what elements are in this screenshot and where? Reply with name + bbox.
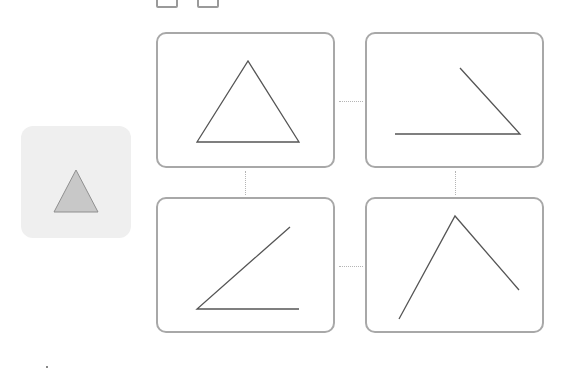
- angle-outline-icon: [367, 34, 546, 170]
- partial-option-box-2: [197, 0, 219, 8]
- filled-triangle-icon: [21, 126, 131, 238]
- connector-bottom: [339, 266, 363, 267]
- cursor-mark: [46, 366, 48, 368]
- partial-option-box-1: [156, 0, 178, 8]
- option-card-angle-peak[interactable]: [365, 197, 544, 333]
- option-card-angle-right[interactable]: [365, 32, 544, 168]
- option-card-angle-left[interactable]: [156, 197, 335, 333]
- angle-outline-icon: [158, 199, 337, 335]
- connector-top: [339, 101, 363, 102]
- angle-outline-icon: [367, 199, 546, 335]
- option-card-triangle[interactable]: [156, 32, 335, 168]
- connector-right: [455, 171, 456, 195]
- connector-left: [245, 171, 246, 195]
- triangle-outline-icon: [158, 34, 337, 170]
- reference-shape-tile: [21, 126, 131, 238]
